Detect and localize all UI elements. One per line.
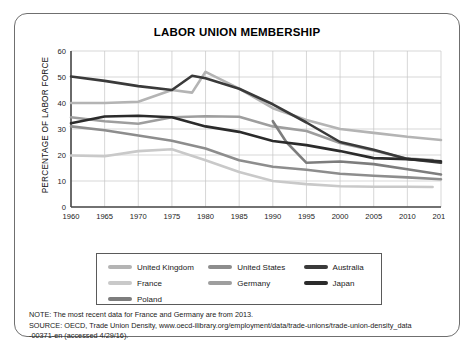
legend-swatch-icon bbox=[208, 281, 232, 285]
legend-label: United States bbox=[237, 263, 285, 272]
legend-item-france[interactable]: France bbox=[97, 279, 208, 288]
legend-swatch-icon bbox=[108, 297, 132, 301]
footnotes: NOTE: The most recent data for France an… bbox=[29, 310, 449, 342]
page-title: LABOR UNION MEMBERSHIP bbox=[15, 26, 459, 38]
line-chart-svg: 0102030405060196019651970197519801985199… bbox=[45, 47, 445, 232]
source-text-line1: SOURCE: OECD, Trade Union Density, www.o… bbox=[29, 321, 449, 332]
plot-area: PERCENTAGE OF LABOR FORCE 01020304050601… bbox=[45, 47, 445, 232]
svg-text:1990: 1990 bbox=[264, 212, 281, 221]
legend-label: Germany bbox=[237, 279, 270, 288]
legend-item-poland[interactable]: Poland bbox=[97, 295, 209, 304]
svg-text:10: 10 bbox=[58, 177, 66, 186]
legend-item-germany[interactable]: Germany bbox=[208, 279, 303, 288]
legend-item-united-states[interactable]: United States bbox=[208, 263, 303, 272]
legend-label: Australia bbox=[333, 263, 364, 272]
legend-row: Poland bbox=[97, 291, 381, 307]
svg-text:1960: 1960 bbox=[63, 212, 80, 221]
svg-text:50: 50 bbox=[58, 73, 66, 82]
svg-text:30: 30 bbox=[58, 125, 66, 134]
legend-label: Japan bbox=[333, 279, 355, 288]
source-text-line2: -00371-en (accessed 4/29/16). bbox=[29, 331, 449, 342]
chart-card: LABOR UNION MEMBERSHIP PERCENTAGE OF LAB… bbox=[14, 13, 460, 337]
note-text: NOTE: The most recent data for France an… bbox=[29, 310, 449, 321]
legend-item-australia[interactable]: Australia bbox=[304, 263, 381, 272]
svg-text:1995: 1995 bbox=[298, 212, 315, 221]
svg-text:1965: 1965 bbox=[96, 212, 113, 221]
svg-text:40: 40 bbox=[58, 99, 66, 108]
svg-text:1970: 1970 bbox=[130, 212, 147, 221]
legend-swatch-icon bbox=[108, 265, 132, 269]
svg-text:1980: 1980 bbox=[197, 212, 214, 221]
legend-label: France bbox=[137, 279, 162, 288]
legend-row: FranceGermanyJapan bbox=[97, 275, 381, 291]
legend-swatch-icon bbox=[108, 281, 132, 285]
legend-item-japan[interactable]: Japan bbox=[304, 279, 381, 288]
svg-text:2010: 2010 bbox=[399, 212, 416, 221]
legend-swatch-icon bbox=[208, 265, 232, 269]
svg-text:20: 20 bbox=[58, 151, 66, 160]
legend-swatch-icon bbox=[304, 281, 328, 285]
chart-legend: United KingdomUnited StatesAustraliaFran… bbox=[96, 253, 382, 305]
svg-text:60: 60 bbox=[58, 47, 66, 56]
legend-item-united-kingdom[interactable]: United Kingdom bbox=[97, 263, 208, 272]
svg-text:2000: 2000 bbox=[332, 212, 349, 221]
svg-text:2005: 2005 bbox=[365, 212, 382, 221]
legend-label: United Kingdom bbox=[137, 263, 194, 272]
legend-swatch-icon bbox=[304, 265, 328, 269]
legend-label: Poland bbox=[137, 295, 162, 304]
svg-text:1975: 1975 bbox=[163, 212, 180, 221]
svg-text:2014: 2014 bbox=[433, 212, 445, 221]
svg-text:0: 0 bbox=[62, 203, 66, 212]
svg-text:1985: 1985 bbox=[231, 212, 248, 221]
legend-row: United KingdomUnited StatesAustralia bbox=[97, 259, 381, 275]
